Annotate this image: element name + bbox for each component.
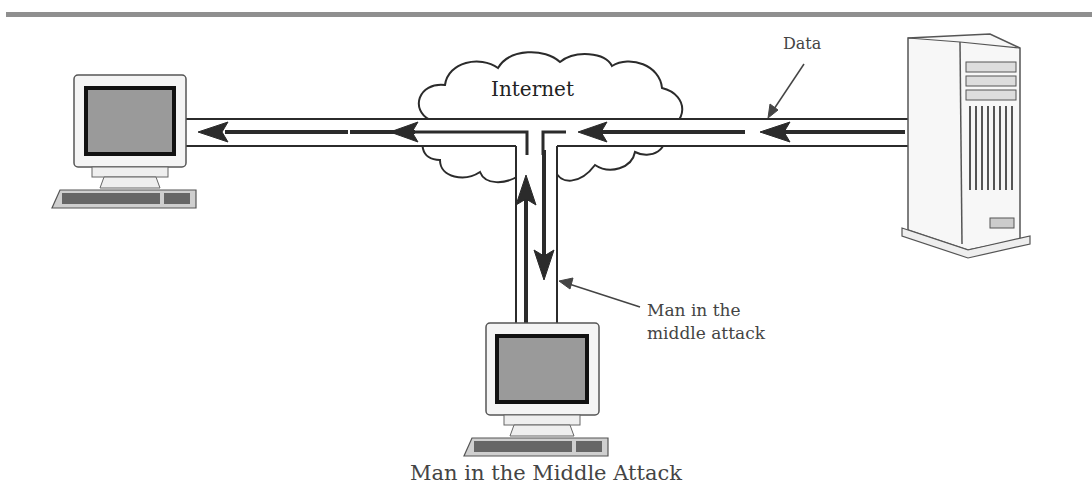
data-label: Data <box>783 34 821 53</box>
internet-label: Internet <box>491 77 574 101</box>
vertical-data-channel <box>516 146 557 323</box>
attack-label: Man in the middle attack <box>647 299 765 345</box>
server-tower-icon <box>902 34 1030 258</box>
figure-caption: Man in the Middle Attack <box>0 461 1092 485</box>
attack-pointer-line <box>559 278 640 307</box>
mitm-diagram <box>0 0 1092 490</box>
attack-label-line1: Man in the <box>647 299 765 322</box>
client-computer-icon <box>52 75 196 208</box>
data-pointer-line <box>768 64 804 118</box>
attacker-computer-icon <box>464 323 608 456</box>
attack-label-line2: middle attack <box>647 322 765 345</box>
